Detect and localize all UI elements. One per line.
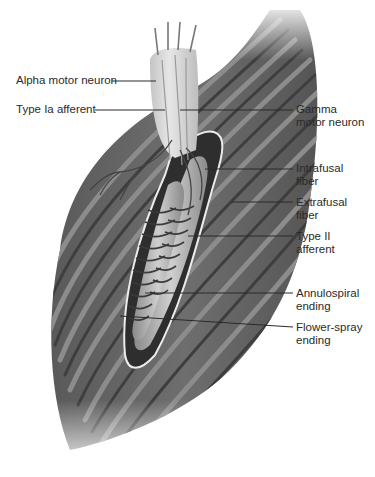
label-gamma-motor-neuron: Gamma motor neuron bbox=[296, 103, 364, 129]
label-text: Extrafusal bbox=[296, 196, 347, 209]
label-text: Type II bbox=[296, 230, 335, 243]
label-text: motor neuron bbox=[296, 116, 364, 129]
label-text: afferent bbox=[296, 243, 335, 256]
label-text: Flower-spray bbox=[296, 321, 362, 334]
label-alpha-motor-neuron: Alpha motor neuron bbox=[16, 74, 117, 87]
label-text: Intrafusal bbox=[296, 162, 343, 175]
label-text: ending bbox=[296, 300, 359, 313]
label-text: ending bbox=[296, 334, 362, 347]
label-annulospiral-ending: Annulospiral ending bbox=[296, 287, 359, 313]
label-text: fiber bbox=[296, 175, 343, 188]
label-text: Alpha motor neuron bbox=[16, 74, 117, 86]
label-type-ii-afferent: Type II afferent bbox=[296, 230, 335, 256]
label-extrafusal-fiber: Extrafusal fiber bbox=[296, 196, 347, 222]
label-text: Annulospiral bbox=[296, 287, 359, 300]
label-flower-spray-ending: Flower-spray ending bbox=[296, 321, 362, 347]
label-type-ia-afferent: Type Ia afferent bbox=[16, 103, 96, 116]
label-intrafusal-fiber: Intrafusal fiber bbox=[296, 162, 343, 188]
label-text: Gamma bbox=[296, 103, 364, 116]
label-text: fiber bbox=[296, 209, 347, 222]
label-text: Type Ia afferent bbox=[16, 103, 96, 115]
